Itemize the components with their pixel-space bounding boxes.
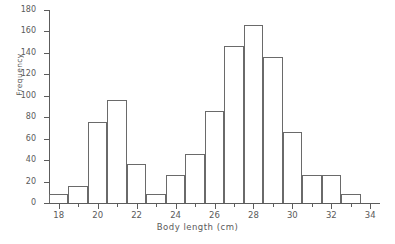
plot-area: 020406080100120140160180 182022242628303… <box>49 10 380 203</box>
y-tick-label: 60 <box>26 135 36 143</box>
histogram-bar <box>146 194 165 203</box>
x-tick-minor <box>234 204 235 207</box>
x-tick-minor <box>351 204 352 207</box>
x-tick-label: 22 <box>131 211 142 220</box>
histogram-figure: Frequency 020406080100120140160180 18202… <box>0 0 395 244</box>
y-tick-label: 180 <box>21 6 36 14</box>
x-tick-major <box>176 204 177 209</box>
y-tick: 0 <box>44 203 49 204</box>
y-tick-label: 80 <box>26 113 36 121</box>
x-tick-major <box>331 204 332 209</box>
histogram-bar <box>127 164 146 203</box>
histogram-bar <box>185 154 204 203</box>
y-tick-label: 0 <box>31 199 36 207</box>
y-tick: 100 <box>44 96 49 97</box>
y-tick: 60 <box>44 139 49 140</box>
x-tick-major <box>253 204 254 209</box>
y-tick: 160 <box>44 31 49 32</box>
x-tick-label: 24 <box>170 211 181 220</box>
y-tick-label: 20 <box>26 178 36 186</box>
x-tick-minor <box>117 204 118 207</box>
x-tick-major <box>137 204 138 209</box>
x-tick-label: 20 <box>92 211 103 220</box>
x-tick-label: 30 <box>287 211 298 220</box>
histogram-bar <box>244 25 263 203</box>
histogram-bar <box>263 57 282 203</box>
y-tick: 120 <box>44 74 49 75</box>
histogram-bar <box>205 111 224 203</box>
x-tick-label: 18 <box>53 211 64 220</box>
y-tick: 20 <box>44 182 49 183</box>
y-tick: 140 <box>44 53 49 54</box>
histogram-bar <box>107 100 126 203</box>
y-tick-label: 40 <box>26 156 36 164</box>
histogram-bar <box>322 175 341 203</box>
histogram-bar <box>49 194 68 203</box>
histogram-bar <box>88 122 107 203</box>
y-tick-label: 140 <box>21 49 36 57</box>
x-tick-minor <box>156 204 157 207</box>
histogram-bar <box>68 186 87 203</box>
x-axis-label: Body length (cm) <box>0 222 395 232</box>
histogram-bar <box>166 175 185 203</box>
histogram-bar <box>224 46 243 203</box>
y-tick-label: 120 <box>21 70 36 78</box>
histogram-bar <box>341 194 360 203</box>
histogram-bar <box>283 132 302 203</box>
y-tick: 180 <box>44 10 49 11</box>
x-tick-major <box>98 204 99 209</box>
histogram-bar <box>302 175 321 203</box>
x-tick-minor <box>273 204 274 207</box>
x-tick-major <box>215 204 216 209</box>
x-tick-label: 28 <box>248 211 259 220</box>
y-axis-spine <box>49 10 50 203</box>
y-tick: 80 <box>44 117 49 118</box>
y-tick-label: 160 <box>21 27 36 35</box>
x-tick-label: 26 <box>209 211 220 220</box>
x-tick-minor <box>195 204 196 207</box>
x-tick-major <box>59 204 60 209</box>
x-tick-minor <box>312 204 313 207</box>
y-tick: 40 <box>44 160 49 161</box>
y-tick-label: 100 <box>21 92 36 100</box>
x-tick-label: 34 <box>365 211 376 220</box>
x-tick-major <box>292 204 293 209</box>
x-tick-minor <box>78 204 79 207</box>
x-tick-major <box>370 204 371 209</box>
x-tick-label: 32 <box>326 211 337 220</box>
